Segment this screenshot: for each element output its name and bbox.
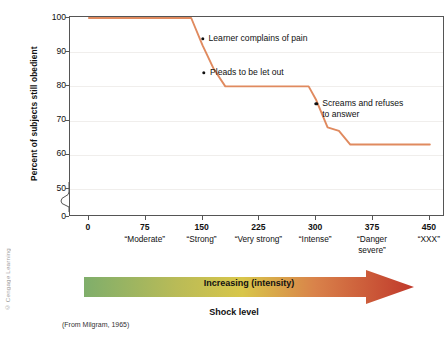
annotation-line: to answer xyxy=(322,109,403,120)
x-tick-label: 300 xyxy=(308,222,322,232)
x-category-label: “Intense” xyxy=(299,234,332,245)
x-tick-mark xyxy=(315,216,316,220)
x-category-line: “Moderate” xyxy=(124,234,165,245)
x-category-line: “Very strong” xyxy=(235,234,283,245)
x-category-line: “Strong” xyxy=(187,234,217,245)
x-category-line: “Danger xyxy=(357,234,387,245)
figure-root: © Cengage Learning Percent of subjects s… xyxy=(0,0,448,344)
x-axis-title: Shock level xyxy=(84,307,384,317)
annotation-line: Pleads to be let out xyxy=(210,67,284,78)
arrow-shape xyxy=(84,270,414,304)
copyright-notice: © Cengage Learning xyxy=(2,248,14,311)
plot-area: Learner complains of painPleads to be le… xyxy=(69,16,444,216)
y-tick-label: 100 xyxy=(44,12,66,22)
x-category-label: “Dangersevere” xyxy=(357,234,387,255)
x-tick-label: 75 xyxy=(140,222,150,232)
x-tick-label: 225 xyxy=(251,222,265,232)
x-category-label: “XXX” xyxy=(418,234,440,245)
x-tick-mark xyxy=(372,216,373,220)
source-citation: (From Milgram, 1965) xyxy=(62,321,129,328)
y-tick-mark xyxy=(65,216,69,217)
x-tick-mark xyxy=(258,216,259,220)
annotation-line: Screams and refuses xyxy=(322,98,403,109)
x-category-label: “Very strong” xyxy=(235,234,283,245)
annotation-text: Learner complains of pain xyxy=(209,33,308,44)
x-category-line: “XXX” xyxy=(418,234,440,245)
x-category-label: “Strong” xyxy=(187,234,217,245)
y-tick-label: 70 xyxy=(44,114,66,124)
annotation-text: Pleads to be let out xyxy=(210,67,284,78)
y-tick-label: 60 xyxy=(44,148,66,158)
x-category-label: “Moderate” xyxy=(124,234,165,245)
y-axis-title: Percent of subjects still obedient xyxy=(27,14,41,214)
x-tick-mark xyxy=(202,216,203,220)
x-category-line: “Intense” xyxy=(299,234,332,245)
x-tick-mark xyxy=(145,216,146,220)
intensity-arrow: Increasing (intensity) xyxy=(84,270,414,304)
x-tick-mark xyxy=(429,216,430,220)
x-tick-label: 450 xyxy=(422,222,436,232)
x-tick-label: 375 xyxy=(365,222,379,232)
annotation-text: Screams and refusesto answer xyxy=(322,98,403,120)
x-category-line: severe” xyxy=(357,245,387,256)
y-tick-label: 0 xyxy=(44,211,66,221)
y-tick-label: 80 xyxy=(44,80,66,90)
annotation-line: Learner complains of pain xyxy=(209,33,308,44)
x-tick-label: 0 xyxy=(86,222,91,232)
x-tick-mark xyxy=(88,216,89,220)
x-tick-label: 150 xyxy=(194,222,208,232)
y-tick-label: 90 xyxy=(44,46,66,56)
